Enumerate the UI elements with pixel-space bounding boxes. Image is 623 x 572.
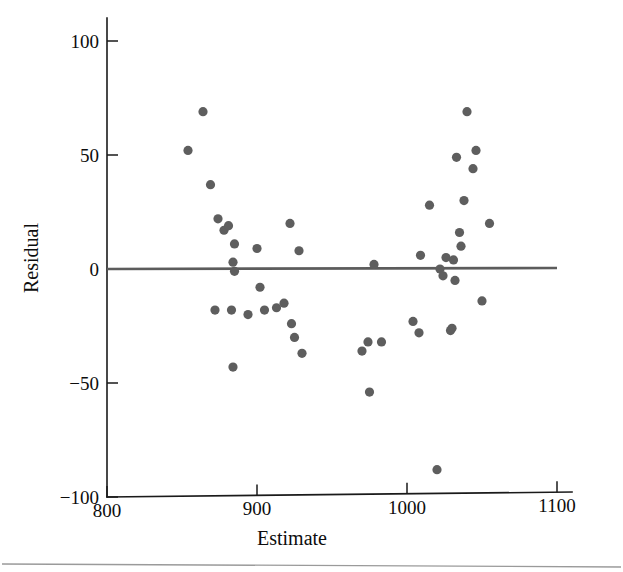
scatter-point [206, 180, 215, 189]
scatter-point [456, 242, 465, 251]
scatter-point [210, 305, 219, 314]
scatter-point [471, 146, 480, 155]
scatter-point [224, 221, 233, 230]
scatter-point [449, 255, 458, 264]
scatter-point [365, 388, 374, 397]
scatter-point [252, 244, 261, 253]
x-tick-label: 800 [93, 500, 122, 521]
scatter-point [213, 214, 222, 223]
scatter-point [377, 337, 386, 346]
scatter-point [432, 465, 441, 474]
scatter-point [294, 246, 303, 255]
scatter-point [183, 146, 192, 155]
scatter-point [369, 260, 378, 269]
scatter-point [452, 153, 461, 162]
scatter-point [260, 305, 269, 314]
y-tick-label: 0 [90, 259, 100, 280]
zero-residual-line [107, 268, 557, 269]
scatter-point [287, 319, 296, 328]
scatter-point [485, 219, 494, 228]
x-tick-label: 1100 [538, 495, 575, 516]
scatter-point [285, 219, 294, 228]
scatter-point [228, 258, 237, 267]
scatter-point [468, 164, 477, 173]
scatter-point [438, 271, 447, 280]
scatter-point [230, 267, 239, 276]
scatter-point [243, 310, 252, 319]
x-axis-title: Estimate [257, 527, 327, 549]
scatter-point [230, 239, 239, 248]
y-tick-label: 50 [80, 145, 99, 166]
y-axis-title: Residual [20, 223, 42, 293]
scatter-point [363, 337, 372, 346]
scatter-point [450, 276, 459, 285]
scatter-point [290, 333, 299, 342]
y-tick-label: 100 [71, 31, 100, 52]
residual-scatter-plot: 100500−50−100 80090010001100 Estimate Re… [0, 0, 623, 572]
scatter-point [198, 107, 207, 116]
scatter-point [447, 324, 456, 333]
scatter-point [477, 296, 486, 305]
scatter-point [459, 196, 468, 205]
scatter-point [227, 305, 236, 314]
scatter-point [279, 299, 288, 308]
y-tick-label: −50 [69, 373, 99, 394]
scatter-point [462, 107, 471, 116]
scatter-point [255, 283, 264, 292]
scatter-point [414, 328, 423, 337]
scatter-point [425, 201, 434, 210]
scatter-point [408, 317, 417, 326]
scatter-point [297, 349, 306, 358]
scatter-point [228, 362, 237, 371]
x-tick-label: 900 [243, 498, 272, 519]
x-tick-label: 1000 [388, 497, 426, 518]
scatter-point [416, 251, 425, 260]
scatter-point [455, 228, 464, 237]
scatter-point [357, 346, 366, 355]
